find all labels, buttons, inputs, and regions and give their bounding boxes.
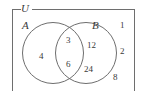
- element-outside-1: 1: [120, 20, 125, 30]
- universal-set-top-border-right: [32, 9, 135, 10]
- element-a-only-4: 4: [39, 51, 44, 61]
- element-b-only-12: 12: [87, 40, 96, 50]
- element-b-only-24: 24: [84, 64, 93, 74]
- set-b-circle: [55, 22, 117, 84]
- universal-set-label: U: [21, 2, 29, 15]
- element-intersection-3: 3: [66, 35, 71, 45]
- element-outside-2: 2: [120, 46, 125, 56]
- set-b-label: B: [92, 19, 99, 31]
- element-outside-8: 8: [113, 72, 118, 82]
- set-a-label: A: [22, 19, 29, 31]
- universal-set-top-border-left: [12, 9, 21, 10]
- element-intersection-6: 6: [66, 59, 71, 69]
- venn-diagram-figure: U A B 4 3 6 12 24 1 2 8: [0, 0, 144, 91]
